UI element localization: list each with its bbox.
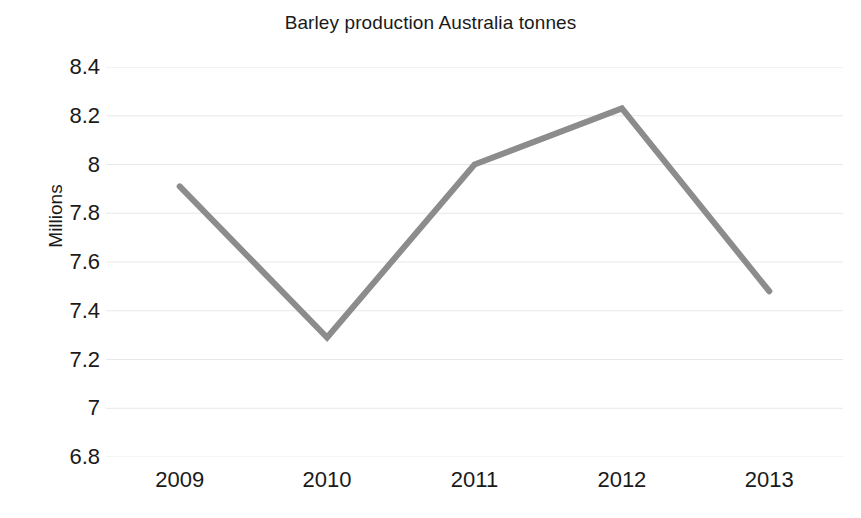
chart-container: Barley production Australia tonnes Milli… <box>0 0 861 518</box>
y-tick-label: 8.2 <box>8 105 100 127</box>
y-tick-label: 7.8 <box>8 202 100 224</box>
series-line-0 <box>180 108 770 337</box>
line-chart-svg <box>106 67 843 457</box>
x-tick-label: 2012 <box>562 468 682 492</box>
y-tick-label: 6.8 <box>8 446 100 468</box>
y-axis-tick-labels: 8.48.287.87.67.47.276.8 <box>0 0 100 518</box>
y-tick-label: 7.4 <box>8 300 100 322</box>
x-tick-label: 2010 <box>267 468 387 492</box>
chart-title: Barley production Australia tonnes <box>0 12 861 34</box>
x-tick-label: 2009 <box>120 468 240 492</box>
gridlines <box>106 67 843 457</box>
x-tick-label: 2011 <box>415 468 535 492</box>
y-tick-label: 7.2 <box>8 349 100 371</box>
y-tick-label: 8.4 <box>8 56 100 78</box>
y-tick-label: 8 <box>8 154 100 176</box>
x-axis-tick-labels: 20092010201120122013 <box>0 468 861 508</box>
data-series-layer <box>180 108 770 337</box>
y-tick-label: 7.6 <box>8 251 100 273</box>
plot-area <box>106 67 843 457</box>
y-tick-label: 7 <box>8 397 100 419</box>
x-tick-label: 2013 <box>709 468 829 492</box>
